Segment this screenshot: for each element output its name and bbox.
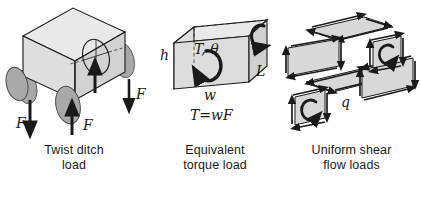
caption-line-2: torque load bbox=[148, 158, 282, 173]
caption-uniform-shear-flow-loads: Uniform shear flow loads bbox=[282, 143, 421, 173]
label-torque-equation: T=wF bbox=[190, 107, 234, 123]
label-shear-flow: q bbox=[341, 94, 350, 110]
label-torque-angle: T, θ bbox=[194, 41, 219, 57]
caption-twist-ditch-load: Twist ditch load bbox=[0, 143, 148, 173]
caption-line-1: Uniform shear bbox=[282, 143, 421, 158]
shear-plate-left bbox=[286, 38, 341, 77]
label-force-center: F bbox=[82, 117, 94, 133]
equivalent-torque-diagram: h T, θ w L T=wF bbox=[148, 0, 282, 143]
twist-ditch-diagram: F F F bbox=[0, 0, 148, 143]
shear-plate-top bbox=[308, 15, 392, 40]
shear-end-plate-lower bbox=[292, 88, 327, 128]
label-width: w bbox=[204, 87, 216, 103]
caption-line-1: Twist ditch bbox=[0, 143, 148, 158]
shear-flow-diagram: q bbox=[282, 0, 421, 143]
label-length: L bbox=[255, 63, 265, 79]
panel-twist-ditch-load: F F F Twist ditch load bbox=[0, 0, 148, 199]
panel-equivalent-torque-load: h T, θ w L T=wF Equivalent torque load bbox=[148, 0, 282, 199]
label-force-right: F bbox=[135, 86, 147, 102]
label-height: h bbox=[160, 47, 169, 63]
caption-line-2: load bbox=[0, 158, 148, 173]
caption-equivalent-torque-load: Equivalent torque load bbox=[148, 143, 282, 173]
label-force-left: F bbox=[15, 115, 27, 131]
box-body bbox=[23, 8, 125, 100]
caption-line-1: Equivalent bbox=[148, 143, 282, 158]
caption-line-2: flow loads bbox=[282, 158, 421, 173]
engineering-figure: F F F Twist ditch load bbox=[0, 0, 421, 199]
panel-uniform-shear-flow-loads: q Uniform shear flow loads bbox=[282, 0, 421, 199]
